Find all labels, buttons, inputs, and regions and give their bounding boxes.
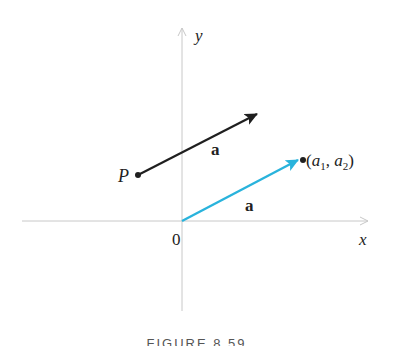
- point-a1-a2-label: (a1, a2): [306, 151, 354, 172]
- vector-a-from-origin: [182, 160, 298, 221]
- x-axis-label: x: [358, 230, 367, 249]
- vector-diagram: y x 0 P a a (a1, a2): [0, 0, 393, 346]
- figure-caption: FIGURE 8.59: [0, 336, 393, 346]
- point-p-label: P: [117, 166, 129, 186]
- point-p-dot: [135, 172, 141, 178]
- figure-canvas: y x 0 P a a (a1, a2) FIGURE 8.59: [0, 0, 393, 346]
- vector-a-label-upper: a: [211, 140, 220, 159]
- y-axis-label: y: [193, 26, 203, 45]
- vector-a-from-p: [138, 114, 257, 175]
- origin-label: 0: [172, 230, 181, 249]
- vector-a-label-lower: a: [245, 196, 254, 215]
